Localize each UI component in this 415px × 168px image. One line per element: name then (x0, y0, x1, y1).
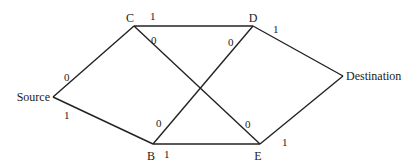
weight-source-c: 0 (64, 71, 70, 83)
node-label-c: C (126, 11, 134, 25)
node-label-d: D (249, 11, 258, 25)
weight-c-e-near-e: 0 (245, 118, 251, 130)
node-label-b: B (147, 149, 155, 163)
weight-d-destination: 1 (273, 23, 279, 35)
weight-c-d: 1 (150, 10, 156, 22)
weight-e-destination: 1 (282, 136, 288, 148)
node-label-destination: Destination (346, 69, 401, 83)
weight-b-e: 1 (164, 148, 170, 160)
weight-b-d-near-d: 0 (228, 36, 234, 48)
edge-d-destination (253, 26, 343, 76)
network-diagram: Source C D B E Destination 0 1 1 0 0 0 0… (0, 0, 415, 168)
edge-b-d (153, 26, 253, 144)
edge-source-c (53, 26, 134, 97)
weight-source-b: 1 (64, 109, 70, 121)
edge-e-destination (260, 76, 343, 144)
node-label-source: Source (17, 90, 50, 104)
node-label-e: E (254, 149, 261, 163)
weight-c-e-near-c: 0 (151, 34, 157, 46)
weight-b-d-near-b: 0 (156, 117, 162, 129)
